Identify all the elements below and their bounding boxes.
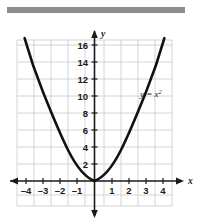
x-tick-label-2: 2 bbox=[126, 185, 131, 196]
x-tick-label--4: –4 bbox=[21, 185, 32, 196]
y-axis-up-arrow bbox=[91, 30, 98, 38]
equation-base: y = x bbox=[139, 89, 159, 99]
graph-plot-area: –4 –3 –2 –1 1 2 3 4 2 4 6 8 10 12 14 16 … bbox=[0, 0, 199, 223]
y-tick-label-10: 10 bbox=[77, 91, 88, 102]
x-axis-right-arrow bbox=[176, 178, 184, 185]
y-tick-label-12: 12 bbox=[77, 74, 88, 85]
x-tick-label-4: 4 bbox=[160, 185, 166, 196]
y-axis-label: y bbox=[100, 29, 106, 39]
y-tick-label-6: 6 bbox=[83, 125, 88, 136]
x-tick-label-3: 3 bbox=[143, 185, 148, 196]
y-tick-label-14: 14 bbox=[77, 57, 88, 68]
x-tick-label--1: –1 bbox=[72, 185, 83, 196]
x-tick-label--3: –3 bbox=[38, 185, 49, 196]
x-tick-label-1: 1 bbox=[109, 185, 115, 196]
y-axis-down-arrow bbox=[91, 210, 98, 218]
y-tick-label-8: 8 bbox=[83, 108, 88, 119]
x-axis-left-arrow bbox=[10, 178, 18, 185]
figure-container: –4 –3 –2 –1 1 2 3 4 2 4 6 8 10 12 14 16 … bbox=[0, 0, 199, 223]
y-tick-label-4: 4 bbox=[83, 142, 89, 153]
x-axis-label: x bbox=[187, 176, 193, 186]
y-tick-label-16: 16 bbox=[77, 40, 88, 51]
y-tick-label-2: 2 bbox=[83, 159, 88, 170]
x-tick-label--2: –2 bbox=[55, 185, 66, 196]
